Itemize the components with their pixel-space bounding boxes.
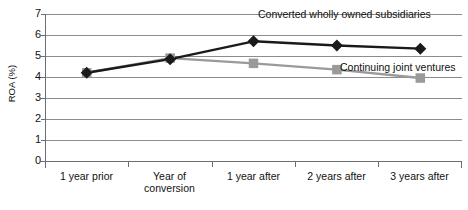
x-tick-mark-0 xyxy=(45,161,46,168)
x-label-2-years-after: 2 years after xyxy=(295,170,378,182)
data-point xyxy=(331,40,343,52)
y-tick-label-1: 1 xyxy=(21,134,41,145)
x-tick-mark-3 xyxy=(295,161,296,167)
x-axis-line xyxy=(45,161,462,162)
x-tick-mark-2 xyxy=(212,161,213,167)
data-point xyxy=(249,59,259,69)
x-label-line: conversion xyxy=(128,182,211,194)
x-label-line: 3 years after xyxy=(378,170,461,182)
y-tick-label-0: 0 xyxy=(21,155,41,166)
x-label-3-years-after: 3 years after xyxy=(378,170,461,182)
y-tick-label-6: 6 xyxy=(21,29,41,40)
y-tick-label-2: 2 xyxy=(21,113,41,124)
data-point xyxy=(416,73,426,83)
x-label-line: 1 year after xyxy=(212,170,295,182)
x-label-1-year-after: 1 year after xyxy=(212,170,295,182)
plot-area: Converted wholly owned subsidiaries Cont… xyxy=(45,14,462,161)
chart-container: ROA (%) 7 6 5 4 3 2 1 0 xyxy=(0,0,468,210)
annotation-continuing-joint-ventures: Continuing joint ventures xyxy=(340,61,456,73)
x-tick-mark-4 xyxy=(378,161,379,167)
x-label-line: 2 years after xyxy=(295,170,378,182)
data-point xyxy=(248,35,260,47)
x-label-line: 1 year prior xyxy=(45,170,128,182)
y-tick-label-3: 3 xyxy=(21,92,41,103)
y-tick-label-5: 5 xyxy=(21,50,41,61)
y-tick-label-7: 7 xyxy=(21,8,41,19)
y-axis-title: ROA (%) xyxy=(6,49,17,119)
series-layer xyxy=(45,14,462,161)
y-tick-label-4: 4 xyxy=(21,71,41,82)
x-tick-mark-5 xyxy=(461,161,462,168)
x-label-line: Year of xyxy=(128,170,211,182)
x-label-year-of-conversion: Year of conversion xyxy=(128,170,211,194)
data-point xyxy=(414,43,426,55)
annotation-converted-subsidiaries: Converted wholly owned subsidiaries xyxy=(258,8,431,20)
x-tick-mark-1 xyxy=(128,161,129,167)
x-label-1-year-prior: 1 year prior xyxy=(45,170,128,182)
